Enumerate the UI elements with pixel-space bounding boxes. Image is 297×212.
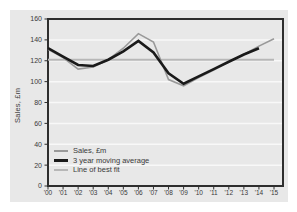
screenshot-root: Sales, £m 020406080100120140160'00'01'02…	[0, 0, 297, 212]
x-tick-label: '10	[194, 189, 203, 196]
y-tick-label: 20	[34, 162, 42, 169]
legend-label: Line of best fit	[73, 165, 120, 174]
chart-legend: Sales, £m3 year moving averageLine of be…	[54, 146, 149, 175]
x-tick-label: '15	[270, 189, 279, 196]
y-tick-label: 40	[34, 141, 42, 148]
series-line-1	[48, 41, 259, 84]
y-tick-label: 0	[38, 182, 42, 189]
x-tick-label: '14	[255, 189, 264, 196]
x-tick-label: '09	[179, 189, 188, 196]
x-tick-label: '02	[74, 189, 83, 196]
x-tick-label: '13	[240, 189, 249, 196]
legend-label: Sales, £m	[73, 146, 106, 155]
legend-item-1: 3 year moving average	[54, 156, 149, 166]
clipped-caption-fragments	[2, 0, 242, 6]
x-tick-label: '05	[119, 189, 128, 196]
legend-line-sample	[54, 150, 68, 152]
legend-item-0: Sales, £m	[54, 146, 149, 156]
chart-panel: Sales, £m 020406080100120140160'00'01'02…	[10, 10, 288, 202]
y-tick-label: 160	[30, 15, 42, 22]
x-tick-label: '07	[149, 189, 158, 196]
legend-item-2: Line of best fit	[54, 165, 149, 175]
y-tick-label: 100	[30, 78, 42, 85]
legend-line-sample	[54, 159, 68, 162]
x-tick-label: '00	[44, 189, 53, 196]
x-tick-label: '03	[89, 189, 98, 196]
x-tick-label: '11	[210, 189, 218, 196]
y-tick-label: 140	[30, 36, 42, 43]
x-tick-label: '12	[225, 189, 234, 196]
legend-line-sample	[54, 169, 68, 171]
legend-label: 3 year moving average	[73, 156, 149, 165]
y-tick-label: 80	[34, 99, 42, 106]
x-tick-label: '06	[134, 189, 143, 196]
y-tick-label: 120	[30, 57, 42, 64]
x-tick-label: '01	[59, 189, 68, 196]
x-tick-label: '08	[164, 189, 173, 196]
x-tick-label: '04	[104, 189, 113, 196]
y-tick-label: 60	[34, 120, 42, 127]
